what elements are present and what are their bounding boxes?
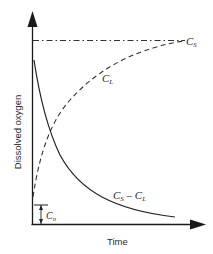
cs-minus-cl-label: CS – CL: [113, 189, 146, 203]
cl-curve: [33, 41, 183, 197]
y-axis-label: Dissolved oxygen: [12, 95, 23, 169]
co-label: Co: [46, 210, 57, 222]
x-axis-arrow-icon: [190, 220, 206, 230]
y-axis-arrow-icon: [28, 11, 38, 27]
x-axis: [32, 220, 207, 230]
x-axis-label: Time: [107, 236, 128, 247]
y-axis: [28, 11, 38, 225]
cl-label: CL: [102, 72, 113, 86]
cs-label: CS: [186, 35, 197, 49]
chart-canvas: CS CL CS – CL Co Time Dissolved oxygen: [0, 0, 213, 254]
